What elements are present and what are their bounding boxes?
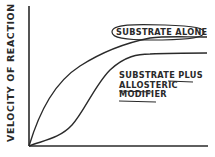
curve-substrate-plus-modifier: [29, 53, 207, 146]
label-substrate-alone-text: SUBSTRATE ALONE: [116, 27, 207, 37]
underline-modifier: [119, 101, 156, 102]
y-axis-label-text: VELOCITY OF REACTION: [5, 3, 16, 142]
label-substrate-word: SUBSTRATE: [119, 70, 178, 80]
label-line-3: MODIFIER: [119, 90, 203, 100]
label-substrate-plus-modifier: SUBSTRATE PLUS ALLOSTERIC MODIFIER: [119, 71, 203, 100]
label-substrate-alone: SUBSTRATE ALONE: [116, 28, 207, 38]
y-axis-label: VELOCITY OF REACTION: [5, 3, 16, 142]
label-plus-word: PLUS: [178, 70, 203, 80]
